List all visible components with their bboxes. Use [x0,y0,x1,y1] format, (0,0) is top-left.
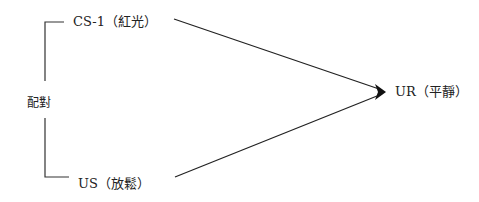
diagram-lines [0,0,479,202]
edge-us-to-ur [175,94,382,177]
cs-label: CS-1（紅光） [73,14,157,30]
arrowhead-icon [375,84,386,100]
pairing-label: 配對 [27,95,51,111]
edge-cs-to-ur [174,19,382,90]
pairing-bracket-top [45,22,64,81]
pairing-bracket-bottom [45,118,69,177]
ur-label: UR（平靜） [395,84,468,100]
us-label: US（放鬆） [78,176,150,192]
